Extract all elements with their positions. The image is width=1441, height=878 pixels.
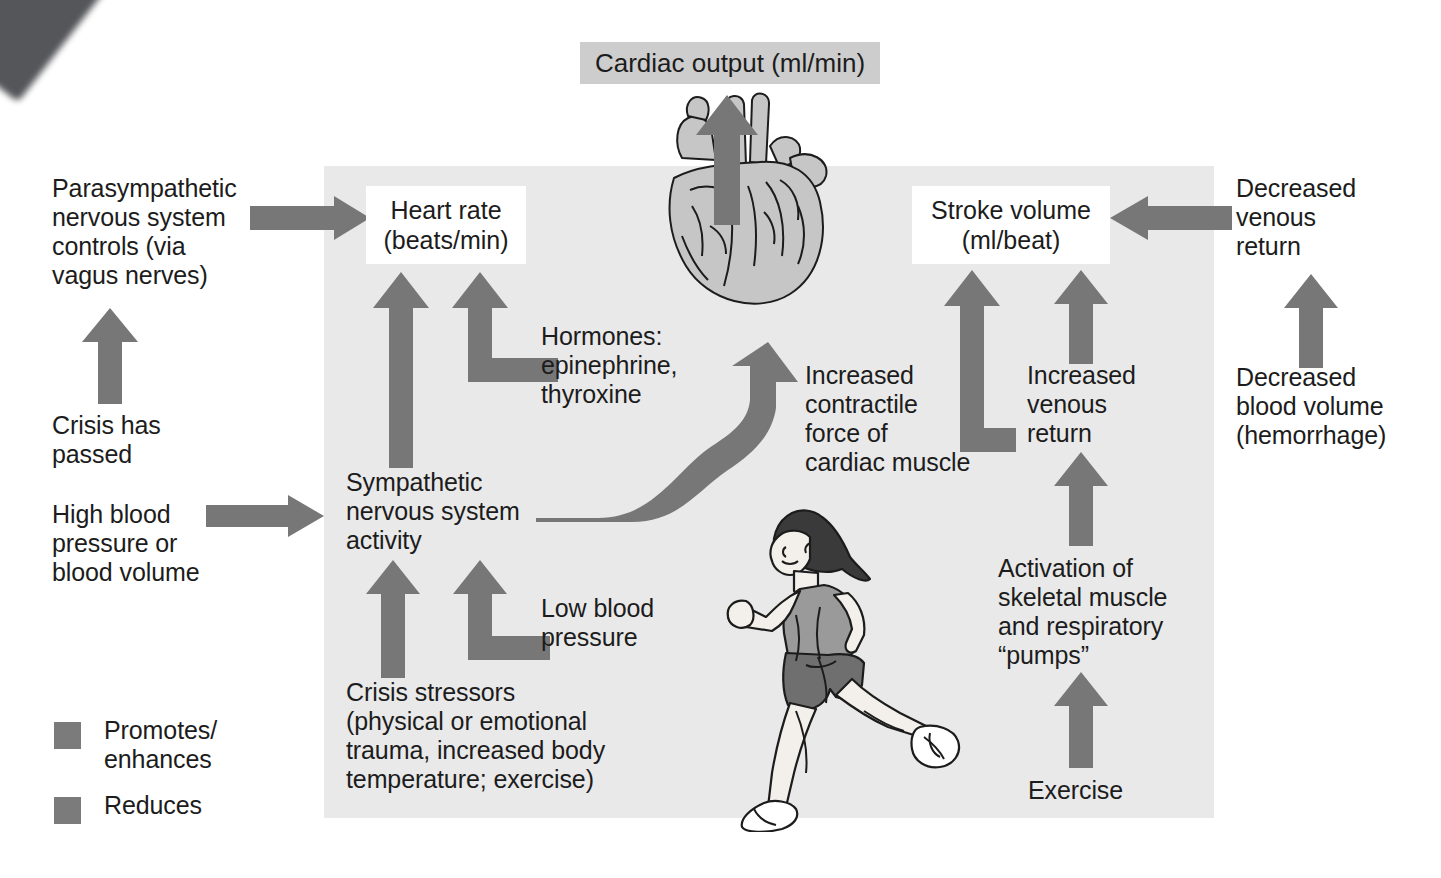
figure-canvas: Cardiac output (ml/min) [0, 0, 1441, 878]
label-crisis-passed: Crisis has passed [52, 411, 161, 469]
arrow-parasympathetic-to-heart-rate [250, 196, 370, 240]
arrow-crisis-passed-to-parasympathetic [80, 308, 140, 404]
stroke-volume-box[interactable]: Stroke volume (ml/beat) [912, 186, 1110, 264]
label-decreased-venous-return: Decreased venous return [1236, 174, 1356, 261]
arrow-decreased-blood-volume-to-decreased-venous-return [1282, 274, 1340, 368]
arrow-low-bp-to-sympathetic [450, 560, 550, 660]
cardiac-output-title: Cardiac output (ml/min) [580, 42, 880, 84]
arrow-crisis-stressors-to-sympathetic [364, 560, 422, 678]
legend-swatch-promotes [54, 722, 81, 749]
label-hormones: Hormones: epinephrine, thyroxine [541, 322, 677, 409]
label-sympathetic: Sympathetic nervous system activity [346, 468, 520, 555]
label-crisis-stressors: Crisis stressors (physical or emotional … [346, 678, 605, 794]
label-parasympathetic: Parasympathetic nervous system controls … [52, 174, 237, 290]
scan-artifact [0, 0, 110, 102]
arrow-exercise-to-pumps [1052, 672, 1110, 768]
legend-label-reduces: Reduces [104, 791, 202, 820]
label-increased-venous-return: Increased venous return [1027, 361, 1136, 448]
label-exercise: Exercise [1028, 776, 1123, 805]
arrow-sympathetic-to-heart-rate [370, 272, 432, 468]
heart-rate-box[interactable]: Heart rate (beats/min) [366, 186, 526, 264]
label-high-blood-pressure: High blood pressure or blood volume [52, 500, 200, 587]
label-low-blood-pressure: Low blood pressure [541, 594, 654, 652]
arrow-increased-venous-return-to-stroke-volume [1052, 270, 1110, 364]
arrow-heart-to-cardiac-output [692, 95, 762, 225]
legend-swatch-reduces [54, 797, 81, 824]
legend-label-promotes: Promotes/ enhances [104, 716, 217, 774]
arrow-pumps-to-increased-venous-return [1052, 452, 1110, 546]
runner-illustration [724, 487, 994, 832]
arrow-high-bp-to-parasympathetic [206, 495, 324, 537]
arrow-decreased-venous-return-to-stroke-volume [1110, 196, 1232, 240]
label-decreased-blood-volume: Decreased blood volume (hemorrhage) [1236, 363, 1386, 450]
label-contractile-force: Increased contractile force of cardiac m… [805, 361, 970, 477]
label-activation-pumps: Activation of skeletal muscle and respir… [998, 554, 1167, 670]
